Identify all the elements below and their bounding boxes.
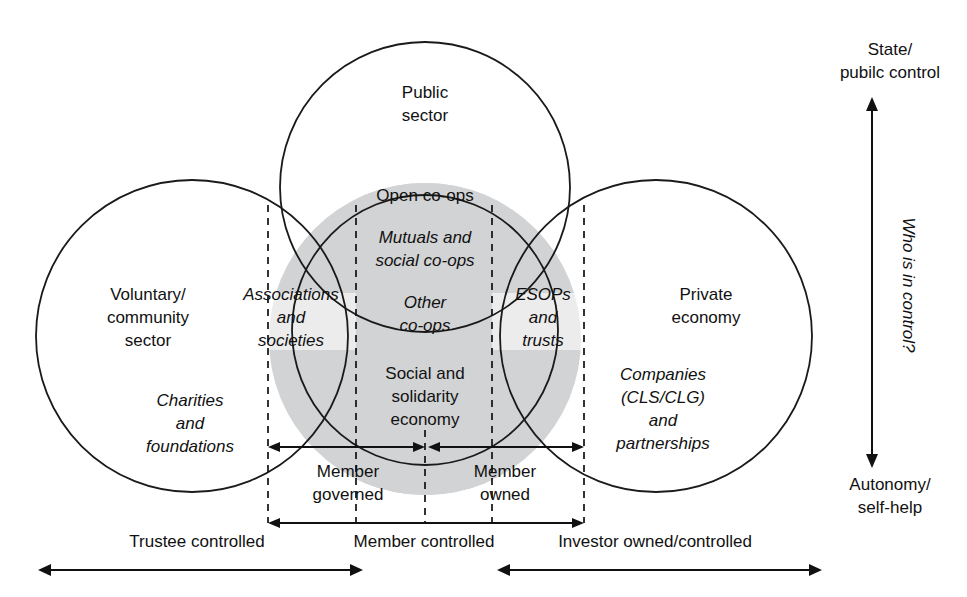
diagram-page: Public sector Voluntary/ community secto… xyxy=(0,0,967,597)
autonomy-label-line2: self-help xyxy=(858,498,922,517)
member-controlled-arrow-head-left xyxy=(268,518,280,528)
member-controlled-arrow-group xyxy=(268,518,584,528)
who-is-in-control-label: Who is in control? xyxy=(899,217,918,353)
state-control-label-line1: State/ xyxy=(868,40,913,59)
trustee-arrow-head-left xyxy=(38,564,51,576)
vertical-axis-arrow-head-top xyxy=(866,97,878,111)
investor-controlled-label: Investor owned/controlled xyxy=(558,532,752,551)
esops-label-line3: trusts xyxy=(522,331,564,350)
vertical-axis-arrow-head-bottom xyxy=(866,454,878,468)
associations-label-line3: societies xyxy=(258,331,325,350)
private-economy-label: Private economy Companies (CLS/CLG) and … xyxy=(615,285,741,453)
member-governed-label-line2: governed xyxy=(313,485,384,504)
private-label-line2: economy xyxy=(672,308,741,327)
vertical-axis-labels: State/ pubilc control Who is in control?… xyxy=(840,40,940,517)
vertical-axis-group xyxy=(866,97,878,468)
voluntary-label-line2: community xyxy=(107,308,190,327)
public-sector-label: Public sector xyxy=(402,83,449,125)
voluntary-community-label: Voluntary/ community sector Charities an… xyxy=(107,285,235,456)
charities-label-line1: Charities xyxy=(156,391,224,410)
esops-label-line2: and xyxy=(529,308,558,327)
investor-arrow-head-right xyxy=(809,564,822,576)
companies-label-line3: and xyxy=(649,411,678,430)
associations-label-line2: and xyxy=(277,308,306,327)
charities-label-line3: foundations xyxy=(146,437,234,456)
member-owned-label-line2: owned xyxy=(480,485,530,504)
mutuals-label-line1: Mutuals and xyxy=(379,228,472,247)
sector-venn-diagram: Public sector Voluntary/ community secto… xyxy=(0,0,967,597)
member-controlled-label: Member controlled xyxy=(354,532,495,551)
companies-label-line1: Companies xyxy=(620,365,706,384)
open-coops-label: Open co-ops xyxy=(376,186,473,205)
autonomy-label-line1: Autonomy/ xyxy=(849,475,931,494)
associations-label-line1: Associations xyxy=(242,285,339,304)
trustee-controlled-label: Trustee controlled xyxy=(129,532,264,551)
member-controlled-arrow-head-right xyxy=(572,518,584,528)
trustee-arrow-head-right xyxy=(350,564,363,576)
public-sector-label-line2: sector xyxy=(402,106,449,125)
private-label-line1: Private xyxy=(680,285,733,304)
sse-label-line1: Social and xyxy=(385,364,464,383)
voluntary-label-line3: sector xyxy=(125,331,172,350)
bottom-control-labels: Trustee controlled Member controlled Inv… xyxy=(129,532,752,551)
companies-label-line4: partnerships xyxy=(615,434,710,453)
esops-label-line1: ESOPs xyxy=(515,285,571,304)
member-governed-arrow-head-left xyxy=(268,442,280,452)
state-control-label-line2: pubilc control xyxy=(840,63,940,82)
other-coops-label-line2: co-ops xyxy=(399,316,451,335)
investor-arrow-head-left xyxy=(497,564,510,576)
voluntary-label-line1: Voluntary/ xyxy=(110,285,186,304)
member-owned-label-line1: Member xyxy=(474,462,537,481)
member-governed-label-line1: Member xyxy=(317,462,380,481)
public-sector-label-line1: Public xyxy=(402,83,449,102)
other-coops-label-line1: Other xyxy=(404,293,448,312)
sse-label-line3: economy xyxy=(391,410,460,429)
sse-label-line2: solidarity xyxy=(391,387,459,406)
member-owned-arrow-head-right xyxy=(572,442,584,452)
mutuals-label-line2: social co-ops xyxy=(375,251,475,270)
charities-label-line2: and xyxy=(176,414,205,433)
companies-label-line2: (CLS/CLG) xyxy=(621,388,705,407)
bottom-arrow-group xyxy=(38,564,822,576)
